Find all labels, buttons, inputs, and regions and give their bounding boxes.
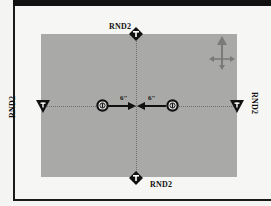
bottom-marker[interactable]	[129, 171, 143, 185]
top-marker[interactable]	[129, 27, 143, 41]
left-marker[interactable]	[36, 99, 50, 113]
right-distance-label: 6"	[148, 94, 155, 102]
left-marker-label: RND2	[8, 96, 17, 118]
left-distance-label: 6"	[120, 94, 127, 102]
left-arrowhead-icon	[137, 102, 145, 110]
right-distance-line	[142, 105, 166, 107]
top-bar	[13, 0, 271, 6]
right-marker-label: RND2	[250, 92, 259, 114]
objective-icon[interactable]	[96, 99, 109, 112]
right-arrowhead-icon	[128, 102, 136, 110]
bottom-marker-label: RND2	[150, 180, 172, 189]
move-arrows-icon	[209, 36, 235, 70]
objective-icon[interactable]	[166, 99, 179, 112]
right-marker[interactable]	[230, 99, 244, 113]
top-marker-label: RND2	[109, 22, 131, 31]
